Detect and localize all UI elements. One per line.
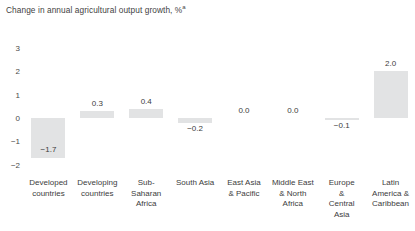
bar-value-label: 0.0 <box>287 106 298 115</box>
y-axis-tick-label: 2 <box>6 67 20 76</box>
category-label-line: Latin <box>361 178 415 189</box>
bar-value-label: 0.0 <box>238 106 249 115</box>
bar-value-label: −1.7 <box>41 145 57 154</box>
category-label-line: Caribbean <box>361 199 415 210</box>
category-label-line: Saharan <box>116 189 176 200</box>
y-axis-tick-label: 3 <box>6 43 20 52</box>
bar <box>374 71 408 118</box>
bar-value-label: 2.0 <box>385 59 396 68</box>
bar-value-label: 0.4 <box>141 97 152 106</box>
bar <box>178 118 212 123</box>
bar-value-label: −0.1 <box>334 121 350 130</box>
category-label-line: Asia <box>312 210 372 221</box>
bar <box>80 111 114 118</box>
x-axis-category-label: LatinAmerica &Caribbean <box>361 178 415 210</box>
bar-value-label: −0.2 <box>187 124 203 133</box>
category-label-line: America & <box>361 189 415 200</box>
y-axis-tick-label: −2 <box>6 160 20 169</box>
y-axis-tick-label: 0 <box>6 114 20 123</box>
bar-value-label: 0.3 <box>92 99 103 108</box>
category-label-line: Africa <box>116 199 176 210</box>
bar-column: −0.2 <box>171 0 220 231</box>
y-axis-tick-label: −1 <box>6 137 20 146</box>
bar <box>129 109 163 118</box>
plot-area: 3210−1−2 −1.70.30.4−0.20.00.0−0.12.0 Dev… <box>0 0 415 231</box>
bar <box>325 118 359 120</box>
y-axis-tick-label: 1 <box>6 90 20 99</box>
agricultural-output-growth-chart: Change in annual agricultural output gro… <box>0 0 415 231</box>
